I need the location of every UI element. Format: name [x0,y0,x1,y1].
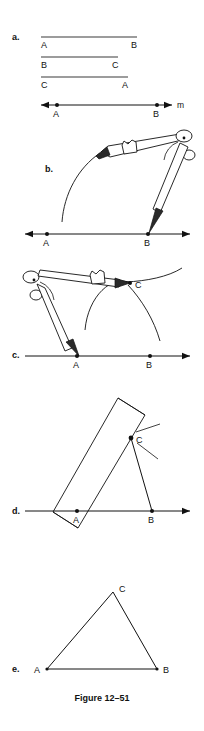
line-m-label: m [177,100,184,110]
step-label-a: a. [12,32,20,42]
step-b-group: b. [25,130,195,248]
step-d-right-arrowhead-icon [182,508,190,514]
step-e-point-b-label: B [163,665,169,675]
step-c-point-b-dot [148,354,152,358]
compass-hinge-pivot-icon [183,137,186,140]
step-label-e: e. [12,664,20,674]
step-a-group: a. A B B C C A A B m [12,32,184,119]
compass-pencil-arm-c [38,270,120,287]
arc-from-b [62,153,100,222]
segment-bc-right-label: C [112,60,119,70]
step-d-point-b-label: B [148,515,154,525]
step-c-point-b-label: B [146,360,152,370]
given-segment-bc: B C [41,57,119,70]
segment-ab-left-label: A [41,40,47,50]
arc-remnant-lower-d [137,443,158,459]
straightedge-tool [53,398,145,528]
step-e-point-b-dot [155,667,158,670]
figure-caption: Figure 12–51 [74,693,129,703]
step-d-point-c-label: C [136,435,143,445]
step-c-point-a-dot [75,354,79,358]
step-d-line-m: A B [25,508,190,525]
point-a-dot [55,103,59,107]
straightedge-body [53,398,145,528]
compass-hinge-pivot-icon-c [33,279,36,282]
given-segment-ab: A B [41,37,137,50]
compass-needle-leg [153,143,188,213]
line-m-right-arrowhead-icon [164,102,172,108]
step-a-point-b-label: B [153,109,159,119]
compass-hinge-head [176,130,192,142]
step-e-point-a-label: A [34,665,40,675]
line-m-left-arrowhead-icon [41,102,49,108]
segment-bc-left-label: B [41,60,47,70]
step-c-point-c-dot [128,281,132,285]
segment-ab-right-label: B [131,40,137,50]
arc-from-b-carryover [85,281,131,330]
step-b-point-b-label: B [144,238,150,248]
arc-from-a-lower [128,285,160,341]
step-d-group: d. C A B [12,398,190,528]
step-a-line-m: A B m [41,100,184,119]
compass-pencil-collar-c [90,270,105,284]
given-segment-ca: C A [41,77,128,90]
step-c-point-c-label: C [135,280,142,290]
compass-tool-b [96,130,195,233]
step-e-group: e. A B C [12,584,169,675]
segment-ca-left-label: C [41,80,48,90]
step-b-left-arrowhead-icon [25,231,33,237]
step-c-line-m: A B [25,353,190,370]
compass-tool-c [23,270,130,356]
step-c-point-a-label: A [73,360,79,370]
step-b-line-m: A B [25,231,190,248]
step-c-group: c. C [12,268,190,370]
compass-needle-point-icon [149,208,163,233]
step-e-point-a-dot [45,667,48,670]
step-e-point-c-label: C [119,584,126,594]
compass-needle-leg-c [37,284,72,351]
arc-remnant-upper-d [136,424,160,432]
compass-pencil-arm [101,134,182,157]
step-label-b: b. [45,164,53,174]
step-label-d: d. [12,506,20,516]
compass-pencil-collar [122,140,137,154]
step-b-point-a-label: A [43,238,49,248]
compass-pencil-tip-icon-c [115,278,130,288]
triangle-abc [47,592,157,669]
step-b-point-a-dot [45,232,49,236]
step-b-right-arrowhead-icon [182,231,190,237]
step-label-c: c. [12,350,20,360]
figure-12-51-illustration: a. A B B C C A A B m [0,0,204,731]
step-d-point-a-dot [75,509,79,513]
step-d-point-b-dot [150,509,154,513]
step-b-point-b-dot [146,232,150,236]
triangle-side-cb-d [131,438,152,511]
step-c-right-arrowhead-icon [182,353,190,359]
segment-ca-right-label: A [122,80,128,90]
figure-container: a. A B B C C A A B m [0,0,204,731]
compass-pencil-tip-icon [96,147,110,159]
step-d-point-a-label: A [73,515,79,525]
step-d-point-c-dot [129,436,134,441]
compass-hinge-head-c [23,271,39,283]
step-a-point-a-label: A [53,109,59,119]
point-b-dot [155,103,159,107]
